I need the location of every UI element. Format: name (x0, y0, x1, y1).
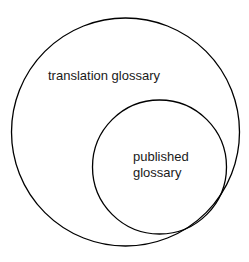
venn-shapes (0, 0, 249, 262)
inner-set-label-line1: published (133, 149, 189, 165)
outer-set-label: translation glossary (48, 68, 160, 84)
inner-set-label-line2: glossary (133, 165, 181, 181)
venn-diagram: translation glossary published glossary (0, 0, 249, 262)
outer-circle-translation-glossary (12, 18, 240, 246)
